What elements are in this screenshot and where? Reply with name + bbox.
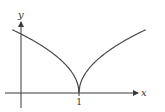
chart: x y 1 <box>0 0 165 112</box>
curve-right-branch <box>79 30 146 93</box>
x-tick-label: 1 <box>76 97 82 107</box>
x-axis-label: x <box>141 87 147 98</box>
curve-left-branch <box>12 30 79 93</box>
y-axis-label: y <box>17 9 24 20</box>
